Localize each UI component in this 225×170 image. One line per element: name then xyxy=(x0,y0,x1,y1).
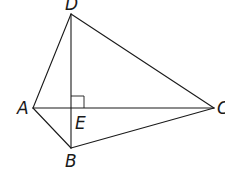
segment-ba xyxy=(33,108,71,148)
label-a: A xyxy=(16,98,29,118)
right-angle-marker xyxy=(71,96,84,108)
segment-cb xyxy=(71,108,214,148)
segment-ad xyxy=(33,14,71,108)
segment-dc xyxy=(71,14,214,108)
geometry-diagram: D A C E B xyxy=(0,0,225,170)
label-d: D xyxy=(65,0,78,14)
label-b: B xyxy=(65,151,77,170)
label-c: C xyxy=(217,98,225,118)
label-e: E xyxy=(75,113,86,133)
